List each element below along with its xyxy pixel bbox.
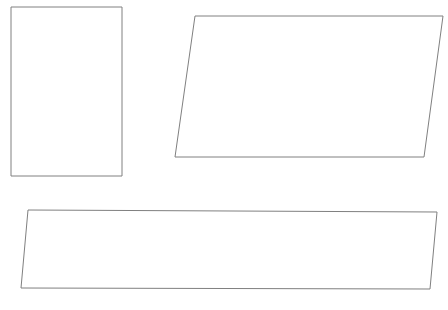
shape-bottom-parallelogram <box>21 210 437 289</box>
shape-right-parallelogram <box>175 16 443 157</box>
geometry-figure <box>0 0 448 310</box>
figure-canvas <box>0 0 448 310</box>
shape-rectangle <box>11 7 122 176</box>
